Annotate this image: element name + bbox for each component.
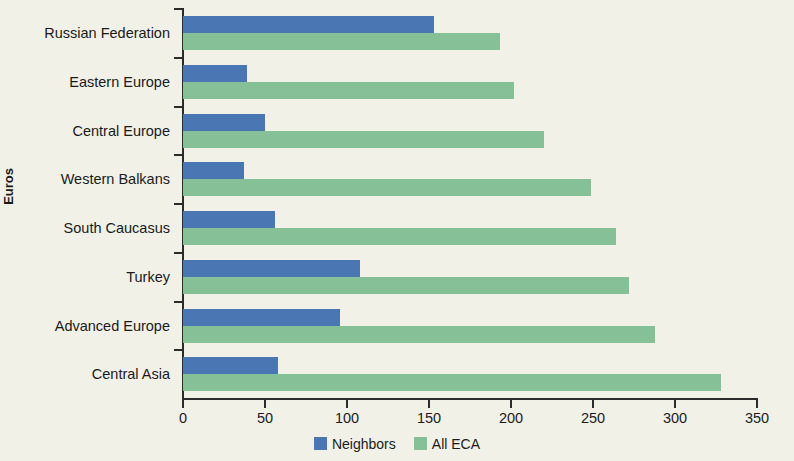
x-axis-tick — [264, 400, 266, 408]
bar-chart: Euros Russian FederationEastern EuropeCe… — [0, 0, 794, 461]
y-axis-category-label: Advanced Europe — [14, 318, 170, 334]
y-axis-tick — [174, 57, 183, 59]
bar-all-eca — [183, 277, 629, 294]
y-axis-category-label: Eastern Europe — [14, 74, 170, 90]
y-axis-category-labels: Russian FederationEastern EuropeCentral … — [18, 8, 176, 398]
y-axis-tick — [174, 349, 183, 351]
legend-label: All ECA — [432, 436, 480, 452]
x-axis-line — [182, 398, 758, 400]
bar-neighbors — [183, 162, 244, 179]
bar-neighbors — [183, 114, 265, 131]
x-axis-tick — [346, 400, 348, 408]
x-axis-tick-label: 150 — [417, 410, 441, 426]
x-axis-tick — [756, 400, 758, 408]
bar-all-eca — [183, 33, 500, 50]
bar-all-eca — [183, 228, 616, 245]
legend-swatch-icon — [414, 437, 427, 450]
x-axis-tick — [428, 400, 430, 408]
bar-all-eca — [183, 326, 655, 343]
x-axis-tick-label: 350 — [745, 410, 769, 426]
y-axis-tick — [174, 203, 183, 205]
x-axis-tick — [182, 400, 184, 408]
y-axis-tick — [174, 301, 183, 303]
chart-legend: NeighborsAll ECA — [0, 434, 794, 452]
x-axis-tick-label: 250 — [581, 410, 605, 426]
x-axis-tick-label: 100 — [335, 410, 359, 426]
y-axis-category-label: South Caucasus — [14, 220, 170, 236]
bar-neighbors — [183, 357, 278, 374]
y-axis-category-label: Central Europe — [14, 123, 170, 139]
x-axis-tick-label: 200 — [499, 410, 523, 426]
x-axis-tick — [674, 400, 676, 408]
bar-all-eca — [183, 131, 544, 148]
bar-all-eca — [183, 179, 591, 196]
y-axis-category-label: Central Asia — [14, 366, 170, 382]
y-axis-tick — [174, 252, 183, 254]
plot-area — [183, 8, 757, 398]
x-axis-tick — [510, 400, 512, 408]
y-axis-category-label: Russian Federation — [14, 25, 170, 41]
x-axis-tick-label: 0 — [179, 410, 187, 426]
bar-neighbors — [183, 65, 247, 82]
y-axis-tick — [174, 106, 183, 108]
y-axis-tick — [174, 154, 183, 156]
y-axis-category-label: Western Balkans — [14, 171, 170, 187]
bar-neighbors — [183, 16, 434, 33]
x-axis-tick-label: 50 — [257, 410, 273, 426]
x-axis-tick-label: 300 — [663, 410, 687, 426]
legend-item: All ECA — [414, 435, 480, 452]
bar-neighbors — [183, 309, 340, 326]
x-axis-tick — [592, 400, 594, 408]
bar-all-eca — [183, 374, 721, 391]
bar-all-eca — [183, 82, 514, 99]
legend-swatch-icon — [314, 437, 327, 450]
legend-item: Neighbors — [314, 435, 396, 452]
y-axis-tick — [174, 8, 183, 10]
y-axis-category-label: Turkey — [14, 269, 170, 285]
bar-neighbors — [183, 211, 275, 228]
legend-label: Neighbors — [332, 436, 396, 452]
bar-neighbors — [183, 260, 360, 277]
